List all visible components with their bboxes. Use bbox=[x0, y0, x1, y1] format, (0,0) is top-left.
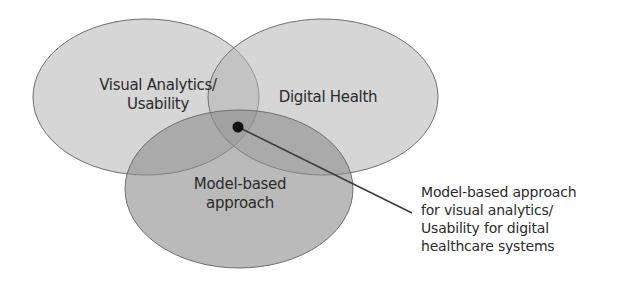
annotation-line2: for visual analytics/ bbox=[421, 201, 576, 219]
annotation-text: Model-based approach for visual analytic… bbox=[421, 183, 576, 255]
label-model-based-line1: Model-based bbox=[180, 175, 300, 194]
label-visual-analytics-line1: Visual Analytics/ bbox=[78, 76, 238, 95]
label-digital-health: Digital Health bbox=[268, 88, 388, 107]
intersection-dot bbox=[233, 122, 244, 133]
label-model-based-line2: approach bbox=[180, 194, 300, 213]
label-visual-analytics-line2: Usability bbox=[78, 95, 238, 114]
label-digital-health-line1: Digital Health bbox=[268, 88, 388, 107]
label-visual-analytics: Visual Analytics/ Usability bbox=[78, 76, 238, 114]
annotation-line4: healthcare systems bbox=[421, 237, 576, 255]
label-model-based: Model-based approach bbox=[180, 175, 300, 213]
annotation-line3: Usability for digital bbox=[421, 219, 576, 237]
annotation-line1: Model-based approach bbox=[421, 183, 576, 201]
